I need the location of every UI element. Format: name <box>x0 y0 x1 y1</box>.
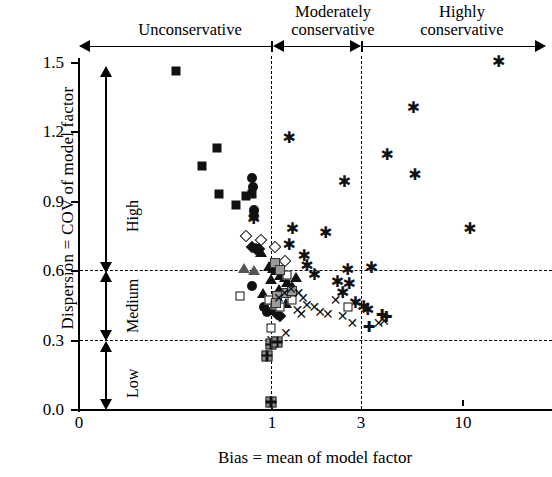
data-point-open-diamond <box>269 241 282 254</box>
data-point-open-square <box>236 291 245 300</box>
chart-figure: Dispersion = COV of model factor Bias = … <box>0 0 552 477</box>
data-point-filled-circle <box>249 205 259 215</box>
data-point-plus: ✚ <box>376 307 389 322</box>
data-point-asterisk: ✱ <box>336 285 349 301</box>
data-point-filled-circle <box>262 307 272 317</box>
data-point-asterisk: ✱ <box>300 258 313 274</box>
data-point-filled-triangle <box>281 277 293 287</box>
data-point-asterisk: ✱ <box>408 167 421 183</box>
data-point-plus-in-square <box>272 336 283 347</box>
data-point-asterisk: ✱ <box>343 276 356 292</box>
y-tick-label: 0.9 <box>18 193 64 210</box>
data-point-gray-square <box>271 298 281 308</box>
data-point-filled-diamond <box>249 243 262 256</box>
data-point-filled-square <box>247 189 256 198</box>
data-point-open-square <box>276 303 285 312</box>
data-point-asterisk: ✱ <box>341 262 354 278</box>
data-point-open-diamond <box>240 229 253 242</box>
data-point-filled-circle <box>248 182 258 192</box>
data-point-x-mark: ✕ <box>309 300 321 314</box>
data-point-asterisk: ✱ <box>283 130 296 146</box>
data-point-x-mark: ✕ <box>292 303 304 317</box>
data-point-x-mark: ✕ <box>297 291 309 305</box>
data-point-asterisk: ✱ <box>361 302 374 318</box>
data-point-asterisk: ✱ <box>338 174 351 190</box>
data-point-open-triangle <box>248 265 260 275</box>
data-point-asterisk: ✱ <box>463 221 476 237</box>
data-point-filled-square <box>213 143 222 152</box>
data-point-x-mark: ✕ <box>296 307 308 321</box>
data-point-open-square <box>283 270 292 279</box>
y-tick-label: 1.2 <box>18 123 64 140</box>
data-point-filled-triangle <box>273 284 285 294</box>
data-point-filled-triangle <box>270 265 282 275</box>
data-point-filled-square <box>242 192 251 201</box>
data-point-open-square <box>270 300 279 309</box>
data-point-asterisk: ✱ <box>283 237 296 253</box>
band-label-moderately-1: Moderately <box>274 4 392 21</box>
data-point-filled-circle <box>247 173 257 183</box>
data-point-filled-square <box>198 162 207 171</box>
data-point-x-mark: ✕ <box>273 291 285 305</box>
data-point-filled-triangle <box>268 302 280 312</box>
band-label-highly-1: Highly <box>398 4 526 21</box>
data-point-asterisk: ✱ <box>357 299 370 315</box>
band-label-unconservative: Unconservative <box>105 22 275 39</box>
scatter-markers-layer: ✱✱✱✱✱✱✱✱✱✱✱✱✱✱✱✱✱✱✱✱✱✱✕✕✕✕✕✕✕✕✕✕✕✕✕✕✕✕✕✕… <box>78 63 552 410</box>
data-point-asterisk: ✱ <box>308 267 321 283</box>
data-point-filled-square <box>214 189 223 198</box>
data-point-filled-diamond <box>266 303 279 316</box>
data-point-asterisk: ✱ <box>319 225 332 241</box>
data-point-x-mark: ✕ <box>322 307 334 321</box>
band-label-moderately-2: conservative <box>274 22 392 39</box>
data-point-plus-in-square <box>266 397 277 408</box>
data-point-plus: ✚ <box>380 309 393 324</box>
data-point-x-mark: ✕ <box>330 293 342 307</box>
data-point-asterisk: ✱ <box>407 100 420 116</box>
x-tick-label: 0 <box>59 414 99 431</box>
data-point-filled-square <box>172 67 181 76</box>
data-point-x-mark: ✕ <box>285 282 297 296</box>
data-point-filled-triangle <box>265 274 277 284</box>
data-point-filled-triangle <box>274 270 286 280</box>
data-point-x-mark: ✕ <box>293 286 305 300</box>
data-point-x-mark: ✕ <box>280 326 292 340</box>
data-point-asterisk: ✱ <box>247 211 260 227</box>
data-point-x-mark: ✕ <box>314 305 326 319</box>
data-point-filled-diamond <box>271 308 284 321</box>
data-point-open-square <box>265 296 274 305</box>
data-point-asterisk: ✱ <box>286 221 299 237</box>
data-point-filled-diamond <box>253 243 266 256</box>
data-point-x-mark: ✕ <box>337 309 349 323</box>
data-point-filled-circle <box>259 302 269 312</box>
data-point-filled-triangle <box>263 261 275 271</box>
x-tick-label: 1 <box>252 414 292 431</box>
data-point-open-square <box>343 303 352 312</box>
y-tick-label: 0.3 <box>18 332 64 349</box>
data-point-gray-square <box>287 286 297 296</box>
x-tick-label: 3 <box>341 414 381 431</box>
data-point-filled-square <box>231 201 240 210</box>
data-point-filled-triangle <box>255 247 267 257</box>
classification-band: Unconservative Moderately conservative H… <box>0 0 552 63</box>
data-point-filled-triangle <box>257 288 269 298</box>
data-point-filled-triangle <box>280 298 292 308</box>
data-point-asterisk: ✱ <box>365 260 378 276</box>
data-point-gray-square <box>270 258 280 268</box>
data-point-filled-triangle <box>279 272 291 282</box>
data-point-filled-diamond <box>245 241 258 254</box>
data-point-asterisk: ✱ <box>381 147 394 163</box>
data-point-plus: ✚ <box>363 318 376 333</box>
data-point-x-mark: ✕ <box>301 298 313 312</box>
data-point-x-mark: ✕ <box>265 333 277 347</box>
data-point-open-triangle <box>238 263 250 273</box>
data-point-filled-triangle <box>263 295 275 305</box>
x-axis-label: Bias = mean of model factor <box>78 448 552 468</box>
band-label-highly-2: conservative <box>398 22 526 39</box>
data-point-open-diamond <box>278 255 291 268</box>
data-point-x-mark: ✕ <box>373 316 385 330</box>
data-point-filled-triangle <box>267 263 279 273</box>
data-point-filled-triangle <box>290 272 302 282</box>
data-point-open-diamond <box>255 234 268 247</box>
data-point-gray-square <box>272 291 282 301</box>
